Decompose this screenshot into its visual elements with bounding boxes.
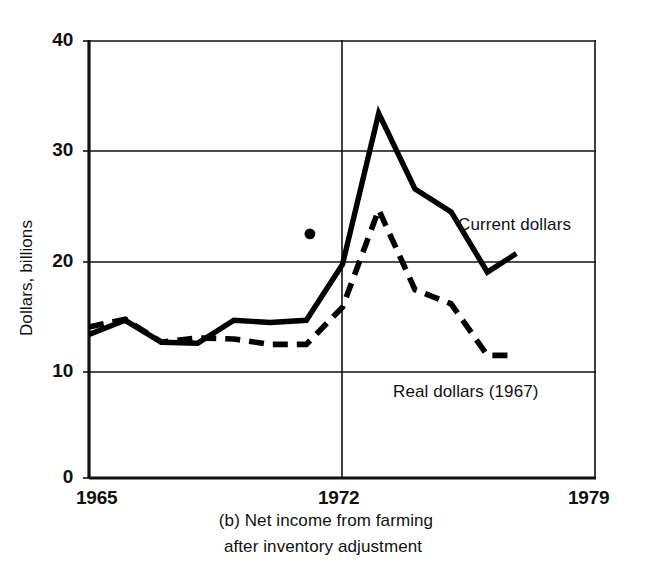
y-tick-0: 0 [27,466,73,488]
figure-caption: (b) Net income from farming after invent… [0,508,646,560]
x-tick-1965: 1965 [76,487,117,509]
caption-line-2: after inventory adjustment [0,534,646,560]
label-real-dollars: Real dollars (1967) [393,382,539,402]
y-tick-10: 10 [27,360,73,382]
y-tick-20: 20 [27,250,73,272]
x-tick-1972: 1972 [318,487,359,509]
chart-figure: Dollars, billions 40 30 20 10 0 1965 197… [0,0,646,568]
caption-line-1: (b) Net income from farming [0,508,646,534]
y-axis-title: Dollars, billions [17,178,37,378]
single-point-marker [305,228,316,239]
series-real-dollars-line [89,210,516,356]
y-tick-40: 40 [27,29,73,51]
y-tick-30: 30 [27,139,73,161]
chart-plot-svg [0,0,646,568]
label-current-dollars: Current dollars [458,215,571,235]
x-tick-1979: 1979 [568,487,609,509]
